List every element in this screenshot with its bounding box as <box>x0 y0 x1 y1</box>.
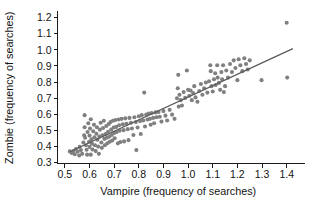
data-point <box>175 96 179 100</box>
x-tick-label: 1.4 <box>279 168 294 180</box>
y-tick-label: 0.9 <box>37 60 52 72</box>
data-point <box>190 98 194 102</box>
data-point <box>99 141 103 145</box>
data-point <box>83 136 87 140</box>
data-point <box>142 91 146 95</box>
data-point <box>176 86 180 90</box>
x-tick-label: 0.8 <box>132 168 147 180</box>
y-axis-title: Zombie (frequency of searches) <box>3 12 15 164</box>
data-point <box>163 114 167 118</box>
data-point <box>185 68 189 72</box>
data-point <box>216 76 220 80</box>
data-point <box>242 56 246 60</box>
y-tick-label: 0.8 <box>37 76 52 88</box>
data-point <box>122 139 126 143</box>
data-point <box>118 140 122 144</box>
data-point <box>80 152 84 156</box>
data-point <box>244 62 248 66</box>
data-point <box>285 76 289 80</box>
data-point <box>238 63 242 67</box>
x-tick-label: 0.6 <box>82 168 97 180</box>
y-tick-label: 1.1 <box>37 27 52 39</box>
data-point <box>134 148 138 152</box>
data-point <box>259 78 263 82</box>
data-point <box>83 113 87 117</box>
data-point <box>170 113 174 117</box>
data-point <box>86 121 90 125</box>
data-point <box>211 89 215 93</box>
x-tick-label: 1.0 <box>181 168 196 180</box>
data-point <box>192 84 196 88</box>
data-point <box>195 100 199 104</box>
x-tick-label: 1.1 <box>205 168 220 180</box>
data-point <box>233 66 237 70</box>
data-point <box>94 132 98 136</box>
data-point <box>126 127 130 131</box>
x-tick-label: 0.9 <box>156 168 171 180</box>
y-tick-label: 0.7 <box>37 92 52 104</box>
data-point <box>230 70 234 74</box>
data-point <box>97 152 101 156</box>
data-point <box>232 58 236 62</box>
data-point <box>117 123 121 127</box>
y-tick-label: 1.2 <box>37 11 52 23</box>
y-tick-label: 1.0 <box>37 44 52 56</box>
data-point <box>180 103 184 107</box>
data-point <box>176 73 180 77</box>
data-point <box>126 138 130 142</box>
data-point <box>208 63 212 67</box>
data-point <box>207 79 211 83</box>
data-point <box>89 153 93 157</box>
data-point <box>85 153 89 157</box>
data-point <box>248 58 252 62</box>
data-point <box>173 117 177 121</box>
data-point <box>212 77 216 81</box>
data-point <box>237 57 241 61</box>
data-point <box>285 21 289 25</box>
data-point <box>89 117 93 121</box>
data-point <box>139 132 143 136</box>
data-point <box>200 93 204 97</box>
data-point <box>120 117 124 121</box>
data-point <box>96 145 100 149</box>
x-tick-label: 1.3 <box>255 168 270 180</box>
x-tick-label: 1.2 <box>230 168 245 180</box>
data-point <box>223 84 227 88</box>
data-point <box>86 130 90 134</box>
data-point <box>87 134 91 138</box>
data-point <box>140 113 144 117</box>
x-tick-label: 0.7 <box>107 168 122 180</box>
data-point <box>113 136 117 140</box>
data-point <box>199 82 203 86</box>
data-point <box>131 133 135 137</box>
data-point <box>132 115 136 119</box>
plot-canvas: 0.30.40.50.60.70.80.91.01.11.20.50.60.70… <box>0 0 313 206</box>
data-point <box>88 126 92 130</box>
data-point <box>215 63 219 67</box>
data-point <box>121 128 125 132</box>
data-point <box>136 126 140 130</box>
data-point <box>224 68 228 72</box>
data-point <box>121 122 125 126</box>
data-point <box>79 148 83 152</box>
y-tick-label: 0.6 <box>37 108 52 120</box>
y-tick-label: 0.4 <box>37 140 52 152</box>
data-point <box>222 90 226 94</box>
data-point <box>143 124 147 128</box>
y-tick-label: 0.5 <box>37 124 52 136</box>
data-point <box>152 121 156 125</box>
x-axis-title: Vampire (frequency of searches) <box>100 185 256 197</box>
scatter-plot-figure: 0.30.40.50.60.70.80.91.01.11.20.50.60.70… <box>0 0 313 206</box>
data-point <box>159 120 163 124</box>
data-point <box>235 78 239 82</box>
data-point <box>102 119 106 123</box>
data-point <box>158 115 162 119</box>
data-point <box>193 95 197 99</box>
data-point <box>83 125 87 129</box>
data-point <box>151 116 155 120</box>
data-point <box>213 71 217 75</box>
data-point <box>123 116 127 120</box>
data-point <box>177 93 181 97</box>
data-point <box>127 116 131 120</box>
data-point <box>94 149 98 153</box>
